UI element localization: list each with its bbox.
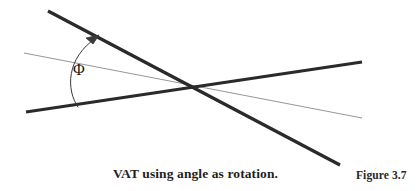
figure-page: Φ VAT using angle as rotation. Figure 3.…	[0, 0, 418, 191]
angle-symbol-label: Φ	[73, 62, 85, 78]
figure-number-label: Figure 3.7	[356, 169, 407, 181]
figure-caption: VAT using angle as rotation.	[113, 166, 278, 182]
vat-angle-diagram	[0, 0, 418, 191]
